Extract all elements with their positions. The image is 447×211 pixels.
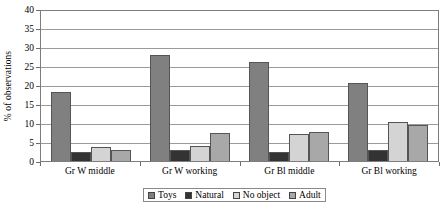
x-axis-category-labels: Gr W middleGr W workingGr Bl middleGr Bl… [40,166,439,182]
bar [170,150,190,161]
bar [368,150,388,161]
x-axis-tick-mark [439,162,440,166]
y-axis-tick-label: 30 [25,43,35,53]
bar [91,147,111,161]
y-axis-tick-label: 20 [25,81,35,91]
y-axis-tick-mark [36,48,40,49]
bar [210,133,230,162]
y-axis-tick-label: 25 [25,62,35,72]
y-axis-tick-mark [36,143,40,144]
y-axis-tick-mark [36,105,40,106]
bar [269,152,289,161]
y-axis-tick-label: 15 [25,100,35,110]
y-axis-tick-mark [36,162,40,163]
bar [150,55,170,161]
y-axis-tick-label: 35 [25,24,35,34]
legend-label: Toys [158,190,176,200]
bar [289,134,309,161]
y-axis-title-text: % of observations [3,51,13,121]
bar [309,132,329,161]
legend-item: Toys [148,190,176,200]
bars-layer [41,11,438,161]
y-axis-title: % of observations [0,0,16,172]
y-axis-tick-mark [36,124,40,125]
bar [249,62,269,161]
y-axis-tick-label: 5 [29,138,34,148]
legend-label: Natural [195,190,224,200]
y-axis-tick-mark [36,86,40,87]
bar-chart: % of observations 0510152025303540 Gr W … [0,0,447,211]
legend-swatch-icon [289,192,296,199]
y-axis-tick-mark [36,67,40,68]
plot-area [40,10,439,162]
x-axis-category-label-2: Gr Bl middle [240,166,340,182]
bar [388,122,408,161]
x-axis-category-label-3: Gr Bl working [339,166,439,182]
legend-swatch-icon [185,192,192,199]
bar [190,146,210,161]
legend-label: No object [243,190,280,200]
bar-group [140,11,239,161]
legend-item: No object [233,190,280,200]
legend-item: Adult [289,190,321,200]
y-axis-tick-label: 0 [29,157,34,167]
y-axis-tick-labels: 0510152025303540 [16,10,36,162]
y-axis-tick-label: 10 [25,119,35,129]
x-axis-category-label-1: Gr W working [140,166,240,182]
legend-item: Natural [185,190,224,200]
legend-swatch-icon [233,192,240,199]
y-axis-tick-mark [36,29,40,30]
bar-group [240,11,339,161]
bar [51,92,71,161]
legend: ToysNaturalNo objectAdult [143,188,326,202]
y-axis-tick-mark [36,10,40,11]
bar [408,125,428,161]
x-axis-category-label-0: Gr W middle [40,166,140,182]
bar-group [41,11,140,161]
bar [71,152,91,161]
y-axis-tick-label: 40 [25,5,35,15]
bar [348,83,368,161]
bar-group [339,11,438,161]
legend-label: Adult [299,190,321,200]
bar [111,150,131,161]
legend-swatch-icon [148,192,155,199]
